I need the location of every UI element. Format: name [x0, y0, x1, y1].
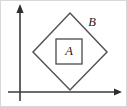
- region-a-label: A: [64, 44, 73, 58]
- y-axis-arrow-icon: [16, 4, 23, 13]
- x-axis-arrow-icon: [114, 88, 122, 95]
- region-b-label: B: [88, 15, 96, 29]
- figure-canvas: A B: [0, 0, 127, 107]
- geometry-figure: A B: [0, 0, 127, 107]
